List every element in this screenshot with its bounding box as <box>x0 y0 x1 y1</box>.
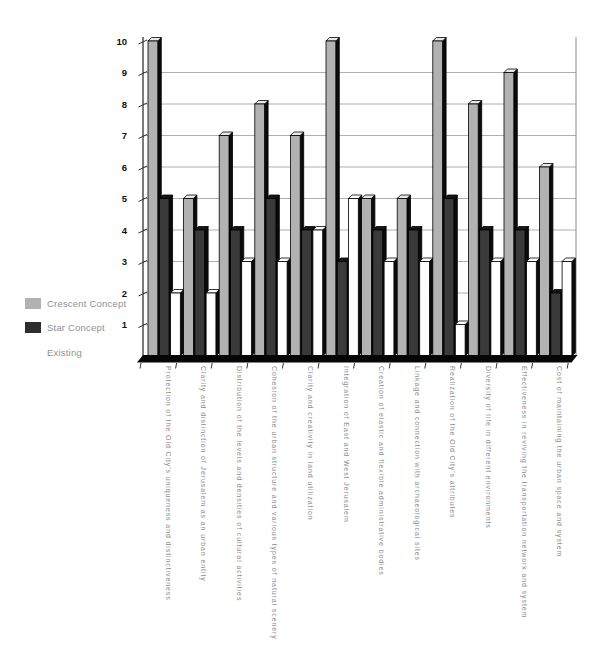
legend-item-existing: Existing <box>25 346 126 358</box>
category-label-11: Cost of maintaining the urban space and … <box>555 366 563 557</box>
bar-star-6 <box>373 230 383 356</box>
bar-crescent-10 <box>504 73 514 357</box>
bar-crescent-6 <box>362 199 372 357</box>
bar-existing-1 <box>206 293 216 356</box>
legend: Crescent Concept Star Concept Existing <box>25 297 126 371</box>
category-label-1: Clarity and distinction of Jerusalem as … <box>199 366 207 582</box>
star-concept-swatch <box>25 322 41 333</box>
category-label-7: Linkage and connection with archaeologic… <box>413 366 421 561</box>
bar-existing-11 <box>562 262 572 357</box>
bar-side-existing-11 <box>572 258 576 356</box>
y-tick-label: 9 <box>122 67 127 78</box>
bar-crescent-1 <box>184 199 194 357</box>
y-tick-label: 4 <box>122 225 128 236</box>
y-tick-label: 5 <box>122 193 128 204</box>
bar-existing-7 <box>420 262 430 357</box>
category-label-0: Protection of the Old City's uniqueness … <box>164 366 172 601</box>
bar-crescent-7 <box>397 199 407 357</box>
legend-item-star-concept: Star Concept <box>25 322 126 334</box>
bar-crescent-8 <box>433 41 443 356</box>
category-label-4: Clarity and creativity in land utilizati… <box>306 366 314 521</box>
y-tick-label: 6 <box>122 162 127 173</box>
legend-item-crescent-concept: Crescent Concept <box>25 297 126 309</box>
category-label-10: Effectiveness in reviving the transporta… <box>520 366 528 618</box>
bar-existing-2 <box>242 262 252 357</box>
bar-existing-6 <box>384 262 394 357</box>
bar-star-1 <box>195 230 205 356</box>
category-label-2: Distribution of the levels and densities… <box>236 366 243 601</box>
bar-crescent-11 <box>540 167 550 356</box>
bar-star-0 <box>159 199 169 357</box>
bar-existing-10 <box>527 262 537 357</box>
legend-label-crescent-concept: Crescent Concept <box>47 298 126 309</box>
bar-existing-4 <box>313 230 323 356</box>
category-labels: Protection of the Old City's uniqueness … <box>164 366 564 640</box>
bar-existing-8 <box>455 325 465 357</box>
y-tick-label: 10 <box>116 36 127 47</box>
category-label-9: Diversity of life in different environme… <box>484 366 492 529</box>
bar-existing-5 <box>349 199 359 357</box>
bar-star-2 <box>230 230 240 356</box>
category-label-8: Realization of the Old City's attributes <box>448 366 456 519</box>
bar-existing-0 <box>171 293 181 356</box>
x-axis-floor <box>137 355 578 363</box>
bar-star-10 <box>515 230 525 356</box>
category-label-5: Integration of East and West Jerusalem <box>342 366 350 523</box>
bar-star-9 <box>480 230 490 356</box>
bar-crescent-3 <box>255 104 265 356</box>
bar-crescent-4 <box>290 136 300 357</box>
bar-crescent-5 <box>326 41 336 356</box>
bar-star-7 <box>408 230 418 356</box>
bar-star-11 <box>551 293 561 356</box>
legend-label-existing: Existing <box>47 347 82 358</box>
bar-star-4 <box>302 230 312 356</box>
figure-page: Crescent Concept Star Concept Existing 1… <box>0 0 604 649</box>
bar-star-8 <box>444 199 454 357</box>
category-label-3: Cohesion of the urban structure and vari… <box>270 366 278 640</box>
existing-swatch <box>25 347 41 358</box>
bar-existing-9 <box>491 262 501 357</box>
legend-label-star-concept: Star Concept <box>47 322 105 333</box>
y-axis-labels: 12345678910 <box>116 36 127 331</box>
category-label-6: Creation of elastic and flexible adminis… <box>378 366 385 576</box>
y-tick-label: 7 <box>122 130 127 141</box>
bars <box>148 38 575 357</box>
bar-crescent-0 <box>148 41 158 356</box>
bar-existing-3 <box>277 262 287 357</box>
bar-star-5 <box>337 262 347 357</box>
y-tick-label: 3 <box>122 256 127 267</box>
y-tick-label: 8 <box>122 99 127 110</box>
bar-crescent-2 <box>219 136 229 357</box>
crescent-concept-swatch <box>25 298 41 309</box>
bar-star-3 <box>266 199 276 357</box>
bar-crescent-9 <box>468 104 478 356</box>
